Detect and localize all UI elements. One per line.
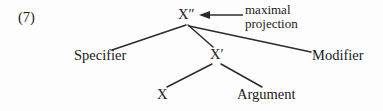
node-head: X <box>157 87 167 102</box>
node-argument: Argument <box>237 87 296 102</box>
example-number: (7) <box>18 10 35 25</box>
branch-xbar-to-argument <box>221 64 262 87</box>
branch-xbar-to-x <box>167 64 212 87</box>
annotation-arrow <box>199 11 243 19</box>
annotation-line-1: maximal <box>245 3 298 17</box>
node-specifier: Specifier <box>74 48 126 63</box>
annotation-maximal-projection: maximal projection <box>245 3 298 31</box>
node-maximal-projection: X″ <box>178 7 195 22</box>
figure-canvas: (7) X″ X′ X Specifier Modifier Argument … <box>0 0 383 111</box>
node-intermediate-projection: X′ <box>210 47 224 62</box>
annotation-line-2: projection <box>245 17 298 31</box>
node-modifier: Modifier <box>312 48 364 63</box>
